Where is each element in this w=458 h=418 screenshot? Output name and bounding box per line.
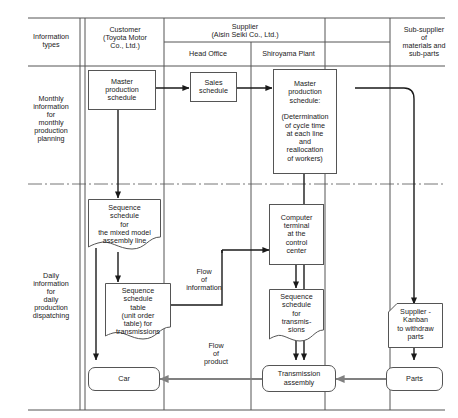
node-parts[interactable]: Parts [386,367,443,391]
node-label: Sequenceschedulefortransmis-sions [269,293,324,334]
node-sales-schedule[interactable]: Salesschedule [190,72,237,102]
node-sequence-schedule-table[interactable]: Sequencescheduletable(unit ordertable) f… [105,283,171,345]
row-label-daily: Dailyinformationfordailyproductiondispat… [22,272,80,320]
node-label: Sequencescheduleforthe mixed modelassemb… [88,204,161,245]
annotation-flow-of-information: Flowofinformation [166,268,242,292]
annotation-flow-of-product: Flowofproduct [178,342,254,366]
column-header-sub-supplier: Sub-supplierofmaterials andsub-parts [391,26,457,58]
column-header-information-types: Informationtypes [22,33,80,49]
column-header-supplier: Supplier(Aisin Seiki Co., Ltd.) [165,23,325,39]
node-sequence-schedule-mixed-model[interactable]: Sequencescheduleforthe mixed modelassemb… [88,199,161,253]
node-transmission-assembly[interactable]: Transmissionassembly [262,365,336,392]
node-label: Sequencescheduletable(unit ordertable) f… [105,287,171,337]
node-master-production-schedule-customer[interactable]: Masterproductionschedule [88,70,156,110]
diagram-canvas: Informationtypes Customer(Toyota MotorCo… [0,0,458,418]
node-supplier-kanban[interactable]: Supplier -Kanbanto withdrawparts [388,303,443,348]
row-label-monthly: Monthlyinformationformonthlyproductionpl… [22,95,80,143]
node-computer-terminal[interactable]: Computerterminalat thecontrolcenter [269,204,324,265]
column-header-shiroyama-plant: Shiroyama Plant [252,50,325,58]
node-car[interactable]: Car [88,367,160,391]
node-sequence-schedule-transmissions[interactable]: Sequenceschedulefortransmis-sions [269,289,324,347]
node-master-production-schedule-plant[interactable]: Masterproductionschedule: (Determination… [273,69,337,174]
node-label: Supplier -Kanbanto withdrawparts [388,308,443,341]
column-header-head-office: Head Office [165,50,251,58]
column-header-customer: Customer(Toyota MotorCo., Ltd.) [86,26,164,50]
